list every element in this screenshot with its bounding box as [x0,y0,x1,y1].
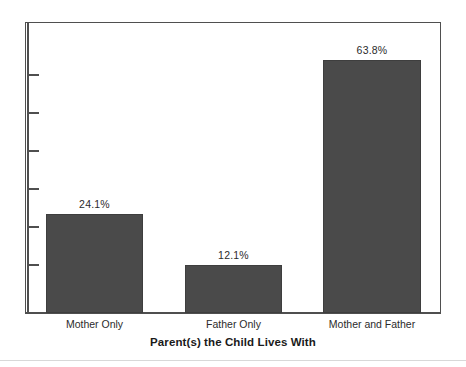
y-axis-line [27,22,29,314]
y-axis-tick [28,112,39,114]
category-label-father-only: Father Only [185,318,282,330]
bar-value-mother-and-father: 63.8% [323,44,421,56]
bar-mother-and-father[interactable] [323,60,421,313]
category-label-mother-and-father: Mother and Father [323,318,421,330]
y-axis-tick [28,150,39,152]
bar-mother-only[interactable] [46,214,143,313]
y-axis-tick [28,74,39,76]
category-label-mother-only: Mother Only [46,318,143,330]
footer-divider [0,360,466,361]
bar-value-father-only: 12.1% [185,249,282,261]
y-axis-tick [28,188,39,190]
x-axis-title: Parent(s) the Child Lives With [0,336,466,348]
bar-father-only[interactable] [185,265,282,313]
bar-value-mother-only: 24.1% [46,198,143,210]
bar-chart-figure: 24.1% Mother Only 12.1% Father Only 63.8… [0,0,466,367]
y-axis-tick [28,226,39,228]
y-axis-tick [28,264,39,266]
